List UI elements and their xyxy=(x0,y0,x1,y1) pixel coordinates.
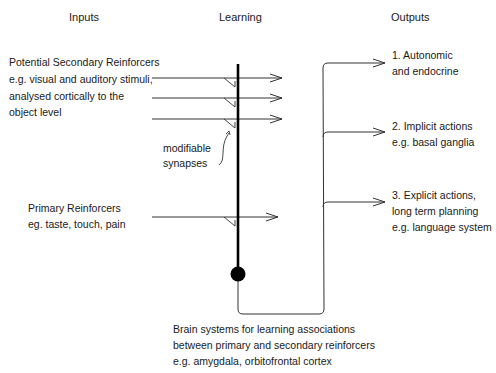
neuron-cell-body xyxy=(231,267,246,282)
secondary-input-arrows xyxy=(152,74,282,123)
primary-input-arrow xyxy=(152,213,278,221)
output-path xyxy=(238,63,385,314)
diagram-canvas xyxy=(0,0,496,373)
synapse-marks xyxy=(224,78,235,226)
synapse-pointer xyxy=(219,133,229,165)
